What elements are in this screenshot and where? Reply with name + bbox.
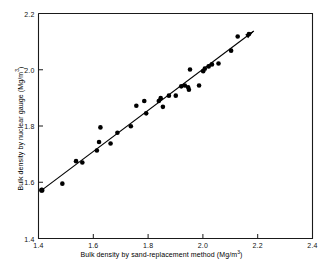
data-point <box>80 160 85 165</box>
data-point <box>142 99 147 104</box>
data-point <box>216 61 221 66</box>
y-axis-ticks <box>39 14 44 239</box>
x-tick-label: 1.6 <box>88 242 98 249</box>
y-axis-title-exponent: 3 <box>14 69 20 72</box>
x-axis-title-text: Bulk density by sand-replacement method … <box>81 251 238 258</box>
x-axis-title: Bulk density by sand-replacement method … <box>0 251 323 258</box>
data-point <box>115 130 120 135</box>
data-point <box>203 66 208 71</box>
data-point <box>129 124 134 129</box>
x-tick-label: 2.4 <box>307 242 317 249</box>
data-point <box>144 111 149 116</box>
data-point <box>188 67 193 72</box>
data-point <box>197 83 202 88</box>
data-point <box>95 148 100 153</box>
data-point <box>247 32 252 37</box>
x-tick-label: 1.8 <box>143 242 153 249</box>
axes-frame <box>39 14 313 239</box>
y-tick-label: 1.4 <box>16 235 35 242</box>
x-tick-label: 2.2 <box>253 242 263 249</box>
x-axis-title-tail: ) <box>240 251 242 258</box>
x-tick-label: 1.4 <box>33 242 43 249</box>
y-tick-label: 2.2 <box>16 10 35 17</box>
data-point <box>158 96 163 101</box>
x-axis-ticks <box>39 234 313 239</box>
data-point <box>210 62 215 67</box>
data-point <box>74 159 79 164</box>
data-point <box>134 103 139 108</box>
data-point <box>97 140 102 145</box>
x-tick-label: 2.0 <box>198 242 208 249</box>
plot-canvas <box>0 0 323 267</box>
y-axis-title-text: Bulk density by nuclear gauge (Mg/m <box>17 72 24 191</box>
data-point <box>60 181 65 186</box>
data-point <box>39 188 44 193</box>
data-point <box>229 48 234 53</box>
data-point <box>167 93 172 98</box>
data-point <box>161 105 166 110</box>
data-point <box>173 93 178 98</box>
data-point <box>98 125 103 130</box>
data-point <box>108 141 113 146</box>
y-axis-title-tail: ) <box>17 67 24 69</box>
data-point <box>235 34 240 39</box>
y-axis-title: Bulk density by nuclear gauge (Mg/m3) <box>17 29 24 229</box>
data-point <box>187 87 192 92</box>
scatter-plot-figure: 1.41.61.82.02.22.4 1.41.61.82.02.2 Bulk … <box>0 0 323 267</box>
